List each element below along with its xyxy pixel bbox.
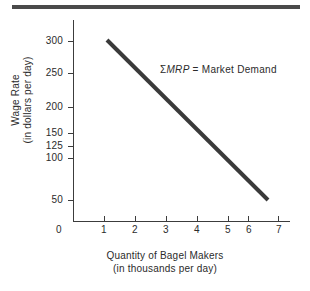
market-demand-label: Market Demand (202, 64, 277, 75)
y-axis-title: Wage Rate (in dollars per day) (10, 30, 34, 170)
mrp-symbol: MRP (166, 64, 189, 75)
y-axis-title-line2: (in dollars per day) (22, 30, 34, 170)
demand-curve-svg (0, 0, 310, 291)
chart-figure: 300 250 200 150 125 100 50 0 1 2 3 4 5 6… (0, 0, 310, 291)
x-axis-title: Quantity of Bagel Makers (in thousands p… (40, 249, 290, 275)
equals-symbol: = (190, 64, 202, 75)
x-axis-title-line2: (in thousands per day) (40, 262, 290, 275)
curve-annotation: ΣMRP=Market Demand (160, 64, 277, 76)
y-axis-title-line1: Wage Rate (10, 30, 22, 170)
x-axis-title-line1: Quantity of Bagel Makers (40, 249, 290, 262)
